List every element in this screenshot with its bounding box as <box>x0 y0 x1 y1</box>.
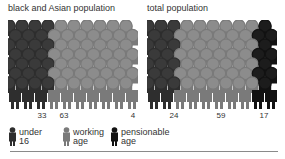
value-under16: 24 <box>164 111 184 120</box>
legend-item-pensionable: pensionable age <box>110 127 190 147</box>
legend-label: working age <box>73 128 104 146</box>
value-pensionable: 17 <box>254 111 274 120</box>
crowd-graphic <box>8 20 138 110</box>
crowd-graphic <box>147 20 277 110</box>
value-under16: 33 <box>32 111 52 120</box>
person-icon-black <box>110 127 119 147</box>
legend-label: pensionable age <box>121 128 170 146</box>
legend: under 16 working age pensionable age <box>8 127 278 147</box>
panel-title: total population <box>147 3 208 13</box>
value-pensionable: 4 <box>123 111 143 120</box>
legend-item-under16: under 16 <box>8 127 58 147</box>
person-icon-dark <box>8 127 17 147</box>
person-icon-gray <box>62 127 71 147</box>
legend-label: under 16 <box>19 128 42 146</box>
panel-title: black and Asian population <box>8 3 115 13</box>
value-working: 63 <box>54 111 74 120</box>
value-working: 59 <box>211 111 231 120</box>
divider <box>10 151 278 152</box>
